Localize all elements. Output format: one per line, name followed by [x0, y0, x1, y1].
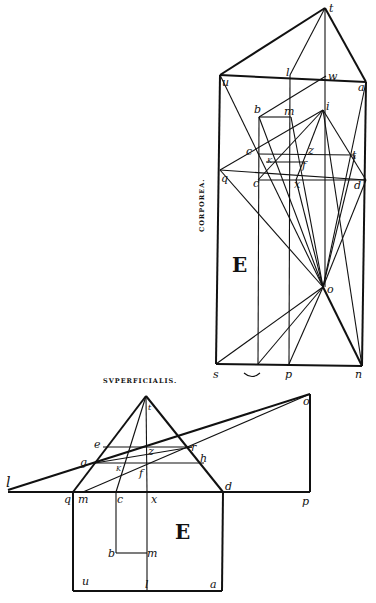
label-x: x	[151, 493, 158, 506]
label-t: t	[329, 2, 334, 15]
label-h: h	[200, 452, 207, 465]
label-q: q	[221, 172, 228, 185]
label-c-lower: c	[253, 177, 259, 190]
ray-o-base-c	[258, 287, 323, 364]
roof-left-edge	[220, 8, 325, 75]
label-u: u	[82, 575, 89, 588]
label-c-upper: c	[246, 145, 252, 158]
upper-figure: CORPOREA. t u a l w b m i c K z f t q c …	[198, 2, 366, 381]
right-edge-a-n	[362, 82, 366, 366]
label-a: a	[358, 81, 365, 94]
label-b: b	[108, 547, 115, 560]
top-edge-u-a	[220, 75, 366, 82]
label-b: b	[254, 103, 261, 116]
perspective-diagram: CORPOREA. t u a l w b m i c K z f t q c …	[0, 0, 376, 603]
label-d: d	[354, 179, 361, 192]
label-l-bottom: l	[145, 578, 149, 591]
label-m-inner: m	[147, 547, 157, 560]
line-b-o	[259, 117, 323, 287]
label-q: q	[64, 493, 71, 506]
lower-figure: SVPERFICIALIS. t o e z r g K f h l q	[6, 377, 310, 591]
line-q-d	[220, 170, 366, 180]
label-s: s	[213, 368, 219, 381]
triangle-left-edge	[73, 396, 146, 492]
label-E-lower: E	[175, 520, 190, 544]
vertical-t-x	[146, 396, 147, 492]
label-m: m	[78, 493, 88, 506]
label-z: z	[307, 144, 314, 157]
label-n: n	[355, 368, 362, 381]
label-w: w	[328, 70, 338, 83]
caption-corporea: CORPOREA.	[198, 179, 206, 232]
label-l: l	[6, 474, 10, 490]
label-i: i	[326, 100, 330, 113]
label-o: o	[327, 283, 334, 296]
ray-o-s	[216, 287, 323, 364]
caption-superficialis: SVPERFICIALIS.	[103, 377, 177, 385]
label-p: p	[302, 495, 309, 508]
label-f: f	[138, 467, 145, 480]
label-e: e	[94, 438, 101, 451]
label-p: p	[285, 368, 292, 381]
ray-o-p	[289, 287, 323, 364]
arc-mark	[244, 373, 260, 377]
line-m-o	[291, 117, 323, 287]
label-m: m	[284, 105, 294, 118]
label-r: r	[191, 441, 197, 454]
line-g-r	[95, 447, 192, 463]
label-t: t	[148, 403, 152, 412]
line-m-o	[83, 394, 310, 492]
label-k: K	[266, 157, 273, 165]
line-l-o	[8, 394, 310, 490]
ray-i-d	[323, 110, 366, 180]
triangle-right-edge	[146, 396, 223, 492]
label-E-upper: E	[232, 253, 247, 277]
line-t-o	[323, 155, 355, 287]
label-c: c	[117, 493, 123, 506]
label-z: z	[147, 445, 154, 458]
label-x: x	[294, 178, 301, 191]
label-k: K	[115, 465, 122, 473]
label-d: d	[225, 480, 232, 493]
label-t-right: t	[352, 149, 357, 162]
label-u: u	[222, 76, 229, 89]
bottom-edge-s-n	[216, 364, 362, 366]
left-edge-u-s	[216, 75, 220, 364]
label-g: g	[80, 456, 87, 469]
label-l: l	[286, 66, 290, 79]
label-a: a	[210, 578, 217, 591]
label-f: f	[301, 159, 308, 172]
square-right	[222, 492, 223, 591]
label-o: o	[303, 395, 310, 408]
